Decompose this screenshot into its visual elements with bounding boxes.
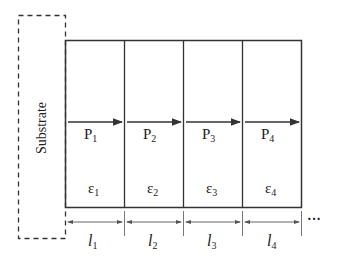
length-label-1: l1 [88, 232, 97, 251]
length-label-4: l4 [267, 232, 276, 251]
polarization-label-1: P1 [84, 126, 97, 144]
length-label-2: l2 [148, 232, 157, 251]
length-label-3: l3 [207, 232, 216, 251]
polarization-label-3: P3 [202, 126, 215, 144]
substrate-label: Substrate [34, 102, 49, 154]
strain-label-3: ε3 [206, 180, 217, 198]
strain-label-1: ε1 [88, 180, 99, 198]
continuation-ellipsis: ··· [307, 212, 321, 227]
strain-label-4: ε4 [265, 180, 276, 198]
layered-structure-diagram: Substrate P1 P2 P3 P4 ε1 ε2 ε3 ε4 l1 l2 … [0, 0, 337, 258]
polarization-label-2: P2 [143, 126, 156, 144]
strain-label-2: ε2 [147, 180, 158, 198]
polarization-label-4: P4 [261, 126, 274, 144]
